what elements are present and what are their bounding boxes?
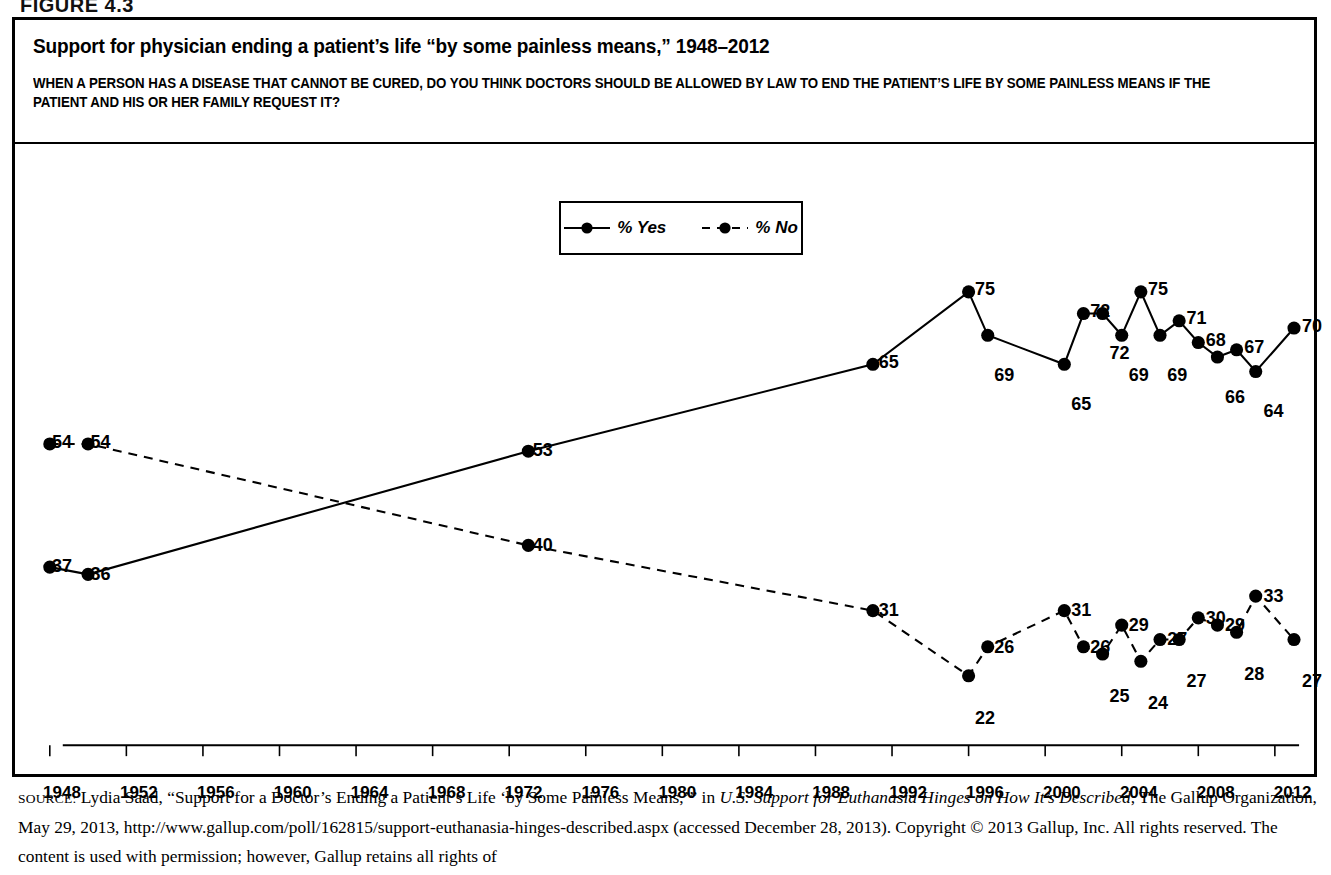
series-line-yes	[50, 292, 1294, 575]
data-point-label: 72	[1110, 343, 1130, 364]
data-point-label: 28	[1244, 664, 1264, 685]
source-prefix: SOURCE:	[18, 791, 76, 806]
figure-number-label: FIGURE 4.3	[20, 0, 134, 14]
data-point-marker	[1287, 633, 1300, 646]
source-note: SOURCE: Lydia Saad, “Support for a Docto…	[18, 783, 1318, 871]
data-point-label: 31	[1071, 600, 1091, 621]
data-point-marker	[866, 604, 879, 617]
data-point-marker	[866, 358, 879, 371]
data-point-label: 40	[533, 535, 553, 556]
data-point-marker	[1249, 590, 1262, 603]
data-point-label: 69	[1167, 365, 1187, 386]
data-point-label: 24	[1148, 693, 1168, 714]
data-point-marker	[1058, 604, 1071, 617]
data-point-label: 75	[1148, 279, 1168, 300]
data-point-marker	[981, 329, 994, 342]
data-point-label: 65	[879, 352, 899, 373]
data-point-label: 65	[1071, 394, 1091, 415]
data-point-label: 30	[1206, 608, 1226, 629]
data-point-marker	[1058, 358, 1071, 371]
data-point-label: 66	[1225, 387, 1245, 408]
data-point-label: 26	[994, 637, 1014, 658]
data-point-marker	[1134, 285, 1147, 298]
data-point-label: 69	[994, 365, 1014, 386]
data-point-marker	[962, 669, 975, 682]
data-point-marker	[1134, 655, 1147, 668]
data-point-label: 72	[1090, 301, 1110, 322]
data-point-marker	[1077, 640, 1090, 653]
chart-plot-area	[15, 20, 1314, 774]
data-point-label: 67	[1244, 337, 1264, 358]
data-point-label: 29	[1225, 615, 1245, 636]
data-point-marker	[1153, 633, 1166, 646]
data-point-marker	[981, 640, 994, 653]
data-point-label: 25	[1110, 686, 1130, 707]
figure-frame: Support for physician ending a patient’s…	[12, 17, 1317, 777]
data-point-marker	[1192, 336, 1205, 349]
data-point-marker	[1192, 611, 1205, 624]
source-text-a: Lydia Saad, “Support for a Doctor’s Endi…	[76, 787, 719, 807]
source-publication-title: U.S. Support for Euthanasia Hinges on Ho…	[719, 787, 1130, 807]
data-point-label: 37	[52, 556, 72, 577]
data-point-label: 53	[533, 440, 553, 461]
data-point-label: 68	[1206, 330, 1226, 351]
data-point-marker	[962, 285, 975, 298]
data-point-label: 69	[1129, 365, 1149, 386]
data-point-label: 33	[1263, 586, 1283, 607]
data-point-marker	[1153, 329, 1166, 342]
data-point-label: 22	[975, 708, 995, 729]
data-point-label: 64	[1263, 401, 1283, 422]
data-point-label: 26	[1090, 637, 1110, 658]
data-point-label: 31	[879, 600, 899, 621]
data-point-marker	[1077, 307, 1090, 320]
data-point-label: 36	[90, 564, 110, 585]
data-point-label: 27	[1302, 671, 1322, 692]
data-point-marker	[1115, 329, 1128, 342]
data-point-marker	[1249, 365, 1262, 378]
data-point-label: 29	[1129, 615, 1149, 636]
data-point-label: 54	[52, 432, 72, 453]
data-point-label: 27	[1167, 629, 1187, 650]
data-point-label: 54	[90, 432, 110, 453]
data-point-marker	[1115, 619, 1128, 632]
data-point-marker	[1211, 350, 1224, 363]
data-point-label: 70	[1302, 316, 1322, 337]
data-point-marker	[1173, 314, 1186, 327]
data-point-label: 71	[1187, 308, 1207, 329]
data-point-marker	[1230, 343, 1243, 356]
data-point-marker	[1287, 322, 1300, 335]
data-point-label: 75	[975, 279, 995, 300]
data-point-label: 27	[1187, 671, 1207, 692]
